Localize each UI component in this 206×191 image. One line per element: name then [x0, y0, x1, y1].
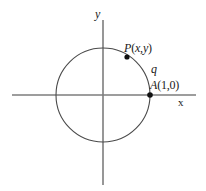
point-a-dot: [147, 92, 153, 98]
point-a-label: A(1,0): [150, 79, 179, 91]
angle-theta-label: q: [151, 63, 157, 75]
unit-circle-figure: P(x,y) q A(1,0) y x: [0, 0, 206, 191]
figure-canvas: [0, 0, 206, 191]
point-p-label: P(x,y): [124, 42, 152, 54]
y-axis-label: y: [95, 8, 100, 20]
x-axis-label: x: [178, 97, 184, 108]
point-p-dot: [124, 54, 129, 59]
point-a-coords: (1,0): [157, 78, 179, 92]
point-p-paren-close: ): [148, 41, 152, 55]
